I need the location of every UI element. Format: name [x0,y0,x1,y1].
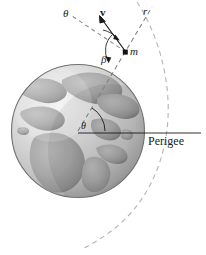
label-theta-upper: θ [63,8,68,19]
label-perigee: Perigee [148,135,184,147]
label-beta: β [101,54,106,65]
label-radius-r: r [143,6,147,17]
label-theta-lower: θ [81,121,86,131]
satellite-point-marker [123,50,128,55]
label-mass-m: m [130,46,138,57]
orbital-diagram-figure: θ v r m β θ Perigee [0,0,206,255]
diagram-canvas [0,0,206,255]
velocity-vector-arrow [100,16,126,52]
label-velocity-vector: v [100,7,106,18]
local-horizontal-line [72,16,126,52]
